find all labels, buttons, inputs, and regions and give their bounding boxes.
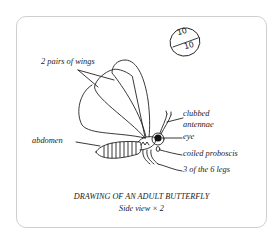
- legs-pointer-line: [158, 164, 182, 171]
- wings-icon: [79, 60, 150, 138]
- abdomen-pointer-line: [76, 142, 100, 146]
- abdomen-icon: [96, 141, 141, 158]
- label-wings: 2 pairs of wings: [41, 58, 95, 66]
- antennae-icon: [160, 111, 171, 134]
- label-antennae-line2: antennae: [183, 121, 214, 129]
- label-proboscis: coiled proboscis: [183, 150, 238, 158]
- label-antennae-line1: clubbed: [183, 110, 210, 118]
- eye-icon: [154, 134, 161, 141]
- proboscis-pointer-line: [160, 150, 182, 155]
- proboscis-icon: [156, 147, 160, 152]
- legs-icon: [143, 150, 158, 164]
- label-eye: eye: [183, 133, 194, 141]
- label-abdomen: abdomen: [32, 137, 63, 145]
- diagram-title: DRAWING OF AN ADULT BUTTERFLY: [16, 193, 267, 201]
- diagram-subtitle: Side view × 2: [16, 205, 267, 213]
- label-legs: 3 of the 6 legs: [183, 166, 230, 174]
